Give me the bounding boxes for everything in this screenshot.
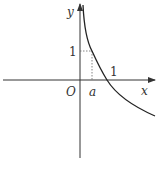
function-curve — [83, 5, 155, 116]
x-axis-label: x — [141, 84, 148, 98]
origin-label: O — [66, 85, 76, 99]
point-a-label: a — [89, 85, 96, 99]
y-axis-label: y — [66, 5, 74, 19]
y-tick-label: 1 — [69, 45, 77, 59]
x-tick-label: 1 — [110, 65, 118, 79]
function-graph: y x O a 1 1 — [0, 0, 162, 170]
